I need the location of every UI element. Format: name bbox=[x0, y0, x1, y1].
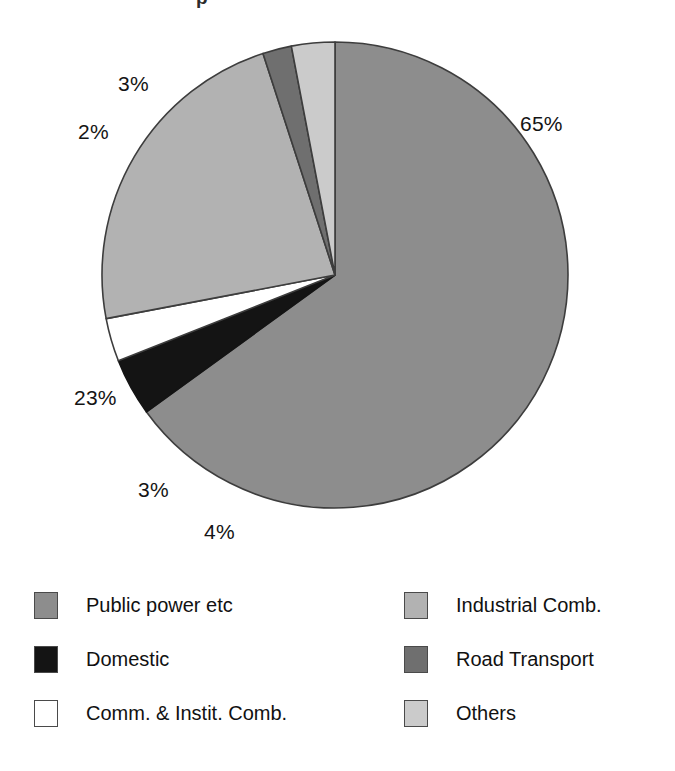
legend-item: Others bbox=[404, 686, 602, 740]
percent-label-domestic: 4% bbox=[204, 520, 235, 544]
percent-label-others: 3% bbox=[118, 72, 149, 96]
percent-label-public_power: 65% bbox=[520, 112, 563, 136]
legend-item-label: Public power etc bbox=[86, 594, 233, 617]
legend-item: Domestic bbox=[34, 632, 287, 686]
legend-swatch-icon bbox=[404, 700, 428, 727]
legend-swatch-icon bbox=[404, 592, 428, 619]
legend-item: Public power etc bbox=[34, 578, 287, 632]
legend-item: Industrial Comb. bbox=[404, 578, 602, 632]
pie-chart-figure: p Public power etc 65%Domestic 4%Comm. &… bbox=[0, 0, 675, 771]
legend-column-left: Public power etcDomesticComm. & Instit. … bbox=[34, 578, 287, 740]
percent-label-comm_instit: 3% bbox=[138, 478, 169, 502]
legend-item: Comm. & Instit. Comb. bbox=[34, 686, 287, 740]
pie-slice-group: Public power etc 65%Domestic 4%Comm. & I… bbox=[102, 42, 568, 508]
chart-legend: Public power etcDomesticComm. & Instit. … bbox=[0, 578, 675, 771]
legend-swatch-icon bbox=[34, 646, 58, 673]
percent-label-road: 2% bbox=[78, 120, 109, 144]
legend-item: Road Transport bbox=[404, 632, 602, 686]
pie-plot-area: Public power etc 65%Domestic 4%Comm. & I… bbox=[0, 0, 675, 575]
legend-item-label: Comm. & Instit. Comb. bbox=[86, 702, 287, 725]
percent-label-industrial: 23% bbox=[74, 386, 117, 410]
legend-swatch-icon bbox=[404, 646, 428, 673]
pie-svg: Public power etc 65%Domestic 4%Comm. & I… bbox=[0, 0, 675, 575]
legend-column-right: Industrial Comb.Road TransportOthers bbox=[404, 578, 602, 740]
legend-item-label: Others bbox=[456, 702, 516, 725]
legend-swatch-icon bbox=[34, 592, 58, 619]
legend-swatch-icon bbox=[34, 700, 58, 727]
legend-item-label: Road Transport bbox=[456, 648, 594, 671]
legend-item-label: Industrial Comb. bbox=[456, 594, 602, 617]
legend-item-label: Domestic bbox=[86, 648, 169, 671]
